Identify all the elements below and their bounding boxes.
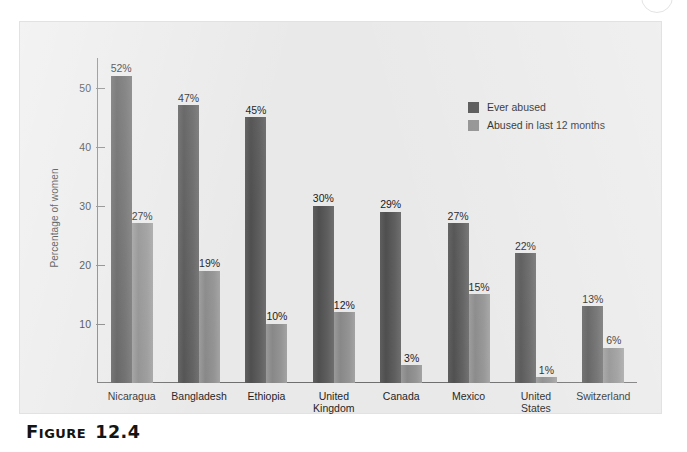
- bar-value-label: 3%: [404, 353, 419, 364]
- bar[interactable]: 22%: [515, 253, 536, 383]
- bar[interactable]: 47%: [178, 105, 199, 383]
- bar[interactable]: 6%: [603, 348, 624, 383]
- bar-value-label: 27%: [132, 211, 153, 222]
- bar[interactable]: 45%: [245, 117, 266, 383]
- legend-item-label: Ever abused: [487, 101, 546, 113]
- bar-value-label: 10%: [266, 311, 287, 322]
- bar[interactable]: 29%: [380, 212, 401, 383]
- bar[interactable]: 52%: [111, 76, 132, 383]
- x-axis-category-label: Bangladesh: [171, 390, 226, 402]
- bar-group: 52%27%Nicaragua: [98, 58, 165, 383]
- figure-caption-word: Figure: [26, 421, 86, 442]
- bar[interactable]: 15%: [469, 294, 490, 383]
- bar-value-label: 27%: [448, 211, 469, 222]
- bar-group: 29%3%Canada: [368, 58, 435, 383]
- bar[interactable]: 12%: [334, 312, 355, 383]
- bar[interactable]: 1%: [536, 377, 557, 383]
- x-axis-category-label: Switzerland: [576, 390, 630, 402]
- page-corner-mark: [641, 0, 673, 13]
- chart-legend: Ever abusedAbused in last 12 months: [468, 101, 605, 137]
- y-axis-title: Percentage of women: [49, 168, 60, 267]
- y-axis-tick-label: 10: [79, 318, 91, 330]
- bar-group: 30%12%United Kingdom: [300, 58, 367, 383]
- bar-value-label: 45%: [245, 105, 266, 116]
- bar[interactable]: 19%: [199, 271, 220, 383]
- x-axis-category-label: Ethiopia: [247, 390, 285, 402]
- bar-value-label: 52%: [111, 63, 132, 74]
- bar[interactable]: 13%: [582, 306, 603, 383]
- x-axis-category-label: United Kingdom: [313, 390, 354, 414]
- bar[interactable]: 10%: [266, 324, 287, 383]
- x-axis-category-label: Canada: [383, 390, 420, 402]
- bar[interactable]: 27%: [132, 223, 153, 383]
- y-axis-tick-label: 50: [79, 82, 91, 94]
- bar-group: 47%19%Bangladesh: [165, 58, 232, 383]
- bar-value-label: 30%: [313, 193, 334, 204]
- y-axis-tick-label: 20: [79, 259, 91, 271]
- x-axis-category-label: Mexico: [452, 390, 485, 402]
- bar[interactable]: 27%: [448, 223, 469, 383]
- bar-value-label: 1%: [539, 365, 554, 376]
- figure-panel: Percentage of women 1020304050 52%27%Nic…: [20, 22, 661, 413]
- legend-item[interactable]: Ever abused: [468, 101, 605, 113]
- bar-group: 45%10%Ethiopia: [233, 58, 300, 383]
- legend-swatch-icon: [468, 120, 479, 131]
- bar-value-label: 6%: [606, 335, 621, 346]
- y-axis-tick-label: 30: [79, 200, 91, 212]
- bar[interactable]: 30%: [313, 206, 334, 383]
- x-axis-category-label: United States: [521, 390, 551, 414]
- bar-value-label: 29%: [380, 199, 401, 210]
- figure-caption-number: 12.4: [95, 422, 140, 442]
- bar-value-label: 22%: [515, 241, 536, 252]
- x-axis-category-label: Nicaragua: [108, 390, 156, 402]
- legend-swatch-icon: [468, 102, 479, 113]
- y-axis-tick-label: 40: [79, 141, 91, 153]
- bar-value-label: 13%: [582, 294, 603, 305]
- bar-value-label: 19%: [199, 258, 220, 269]
- legend-item[interactable]: Abused in last 12 months: [468, 119, 605, 131]
- bar-value-label: 15%: [469, 282, 490, 293]
- figure-caption: Figure12.4: [26, 421, 140, 442]
- bar-value-label: 47%: [178, 93, 199, 104]
- bar-value-label: 12%: [334, 300, 355, 311]
- bar[interactable]: 3%: [401, 365, 422, 383]
- legend-item-label: Abused in last 12 months: [487, 119, 605, 131]
